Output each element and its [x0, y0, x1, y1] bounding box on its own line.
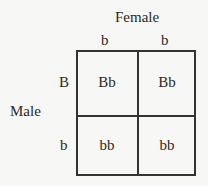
- column-allele-2: b: [161, 33, 169, 48]
- column-allele-1: b: [101, 33, 109, 48]
- female-label: Female: [115, 10, 159, 25]
- cell-r2c1: bb: [78, 138, 136, 153]
- cell-r2c2: bb: [138, 138, 196, 153]
- row-allele-1: B: [59, 75, 69, 90]
- grid-divider-vertical: [137, 52, 139, 174]
- cell-r1c2: Bb: [138, 75, 196, 90]
- row-allele-2: b: [60, 138, 68, 153]
- male-label: Male: [10, 104, 41, 119]
- cell-r1c1: Bb: [78, 75, 136, 90]
- grid-divider-horizontal: [78, 115, 194, 117]
- punnett-grid: Bb Bb bb bb: [76, 50, 196, 176]
